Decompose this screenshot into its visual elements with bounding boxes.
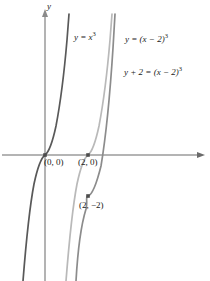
curve-label-y-equals-x-cubed: y = x3 (74, 31, 96, 42)
x-axis-arrow-icon (197, 152, 205, 158)
curve-label-exponent-3: 3 (179, 65, 182, 72)
curve-label-text-2: y = (x − 2) (125, 34, 165, 44)
y-axis-label: y (47, 2, 51, 11)
point-label-two-neg-two: (2, −2) (79, 201, 104, 210)
curve-label-exponent-2: 3 (165, 32, 168, 39)
point-label-origin: (0, 0) (44, 158, 64, 167)
cubic-translation-figure: y y = x3 y = (x − 2)3 y + 2 = (x − 2)3 (… (0, 0, 210, 281)
curve-y-equals-x-cubed (23, 14, 69, 281)
point-label-two-zero: (2, 0) (78, 158, 98, 167)
graph-canvas (0, 0, 210, 281)
curve-label-exponent-1: 3 (93, 30, 96, 37)
curve-label-y-plus-2: y + 2 = (x − 2)3 (124, 66, 182, 77)
point-marker-two-neg-two (86, 194, 90, 198)
curve-y-equals-x-minus-2-cubed (66, 14, 112, 281)
curve-label-y-equals-x-minus-2-cubed: y = (x − 2)3 (125, 33, 168, 44)
curve-label-text-1: y = x (74, 32, 93, 42)
curve-label-text-3: y + 2 = (x − 2) (124, 67, 179, 77)
